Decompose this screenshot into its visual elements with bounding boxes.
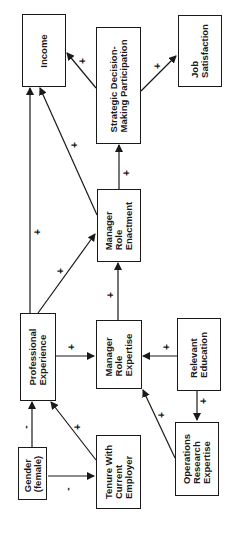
node-label: Professional Experience [28,328,48,385]
sign-expertise-enactment: + [106,292,116,298]
edge-or-expertise [143,390,175,458]
sign-strategic-income: + [78,58,88,64]
edge-enactment-income [40,88,97,215]
node-label: Gender (female) [23,455,43,491]
node-label: Tenure With Current Employer [104,445,134,499]
node-strategic-decision-making: Strategic Decision- Making Participation [96,27,141,144]
sign-profexp-income: + [33,229,43,235]
edge-tenure-profexp [51,402,96,460]
node-tenure: Tenure With Current Employer [96,435,141,509]
node-operations-research-expertise: Operations Research Expertise [175,422,219,496]
node-label: Operations Research Expertise [182,434,212,484]
sign-education-expertise: + [162,344,172,350]
node-income: Income [22,14,66,87]
sign-profexp-enactment: + [56,268,66,274]
node-gender: Gender (female) [18,447,47,500]
sign-enactment-income: + [70,142,80,148]
node-label: Strategic Decision- Making Participation [109,39,129,132]
node-label: Relevant Education [189,332,209,378]
node-label: Job Satisfaction [190,24,210,78]
sign-strategic-job: + [153,63,163,69]
sign-enactment-strategic: + [122,170,132,176]
node-relevant-education: Relevant Education [177,318,221,391]
node-manager-role-enactment: Manager Role Enactment [97,189,141,262]
path-diagram: Income Strategic Decision- Making Partic… [0,0,232,534]
edge-profexp-enactment [38,234,95,313]
node-job-satisfaction: Job Satisfaction [178,15,222,87]
sign-education-or: + [199,398,209,404]
sign-or-expertise: + [157,412,167,418]
node-label: Income [39,34,49,67]
node-manager-role-expertise: Manager Role Expertise [96,320,142,389]
node-label: Manager Role Expertise [104,333,134,376]
sign-profexp-expertise: + [67,344,77,350]
sign-tenure-profexp: + [73,424,83,430]
edge-strategic-job-satisfaction [141,56,176,91]
sign-gender-tenure: - [63,487,73,490]
sign-gender-profexp: - [21,425,31,428]
node-professional-experience: Professional Experience [20,313,56,401]
node-label: Manager Role Enactment [104,201,134,250]
